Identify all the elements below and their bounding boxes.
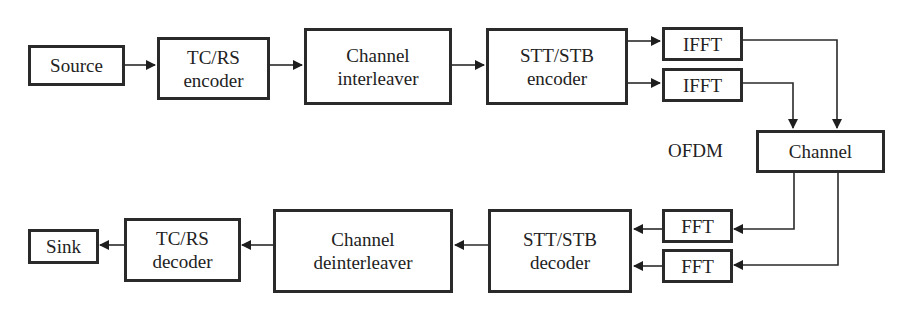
sink-label: Sink	[46, 235, 81, 258]
stc-encoder-label-line1: STT/STB	[520, 44, 594, 67]
tc-rs-encoder-block: TC/RS encoder	[157, 37, 270, 100]
stc-decoder-label-line2: decoder	[530, 251, 590, 274]
tc-rs-decoder-label-line1: TC/RS	[156, 227, 209, 250]
interleaver-label-line1: Channel	[346, 44, 409, 67]
source-label: Source	[50, 54, 103, 77]
stt-stb-encoder-block: STT/STB encoder	[486, 28, 628, 105]
deinterleaver-label-line2: deinterleaver	[313, 251, 412, 274]
fft-block-1: FFT	[662, 209, 733, 243]
tc-rs-decoder-block: TC/RS decoder	[124, 218, 241, 282]
channel-interleaver-block: Channel interleaver	[304, 28, 452, 105]
source-block: Source	[28, 45, 125, 86]
ifft-2-label: IFFT	[683, 74, 722, 97]
fft-1-label: FFT	[681, 215, 714, 238]
ofdm-label: OFDM	[668, 140, 723, 162]
ifft-1-label: IFFT	[683, 33, 722, 56]
sink-block: Sink	[28, 229, 99, 264]
tc-rs-encoder-label-line2: encoder	[183, 69, 243, 92]
stt-stb-decoder-block: STT/STB decoder	[488, 209, 632, 293]
channel-deinterleaver-block: Channel deinterleaver	[273, 209, 453, 293]
channel-label: Channel	[789, 140, 852, 163]
fft-2-label: FFT	[681, 255, 714, 278]
interleaver-label-line2: interleaver	[337, 67, 418, 90]
channel-block: Channel	[756, 130, 885, 173]
ifft-block-2: IFFT	[662, 68, 743, 102]
deinterleaver-label-line1: Channel	[331, 228, 394, 251]
tc-rs-encoder-label-line1: TC/RS	[187, 46, 240, 69]
tc-rs-decoder-label-line2: decoder	[152, 250, 212, 273]
fft-block-2: FFT	[662, 249, 733, 283]
stc-decoder-label-line1: STT/STB	[523, 228, 597, 251]
stc-encoder-label-line2: encoder	[527, 67, 587, 90]
ifft-block-1: IFFT	[662, 27, 743, 61]
